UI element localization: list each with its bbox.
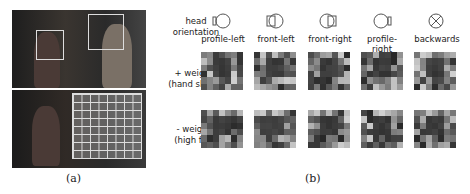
head-front-left-icon <box>264 12 286 30</box>
grid-overlay <box>72 93 142 159</box>
col-profile-left: profile-left <box>200 34 246 44</box>
head-backwards-icon <box>425 12 447 30</box>
weight-heatmap <box>201 110 243 148</box>
weight-heatmap <box>414 52 456 90</box>
face-box-left <box>36 30 64 60</box>
col-front-left: front-left <box>253 34 299 44</box>
weight-heatmap <box>308 52 350 90</box>
caption-b: (b) <box>305 172 321 185</box>
caption-a: (a) <box>66 172 81 185</box>
col-backwards: backwards <box>414 34 460 44</box>
col-profile-right: profile-right <box>359 34 405 54</box>
photo-grid-overlay <box>12 90 146 168</box>
weight-heatmap <box>361 52 403 90</box>
weight-heatmap <box>361 110 403 148</box>
head-profile-left-icon <box>211 12 233 30</box>
weight-heatmap <box>201 52 243 90</box>
head-profile-right-icon <box>372 12 394 30</box>
face-box-right <box>88 14 124 50</box>
weight-heatmap <box>254 110 296 148</box>
weight-heatmap <box>254 52 296 90</box>
weight-heatmap <box>414 110 456 148</box>
head-front-right-icon <box>318 12 340 30</box>
photo-handshake <box>12 10 146 88</box>
col-front-right: front-right <box>307 34 353 44</box>
weight-heatmap <box>308 110 350 148</box>
